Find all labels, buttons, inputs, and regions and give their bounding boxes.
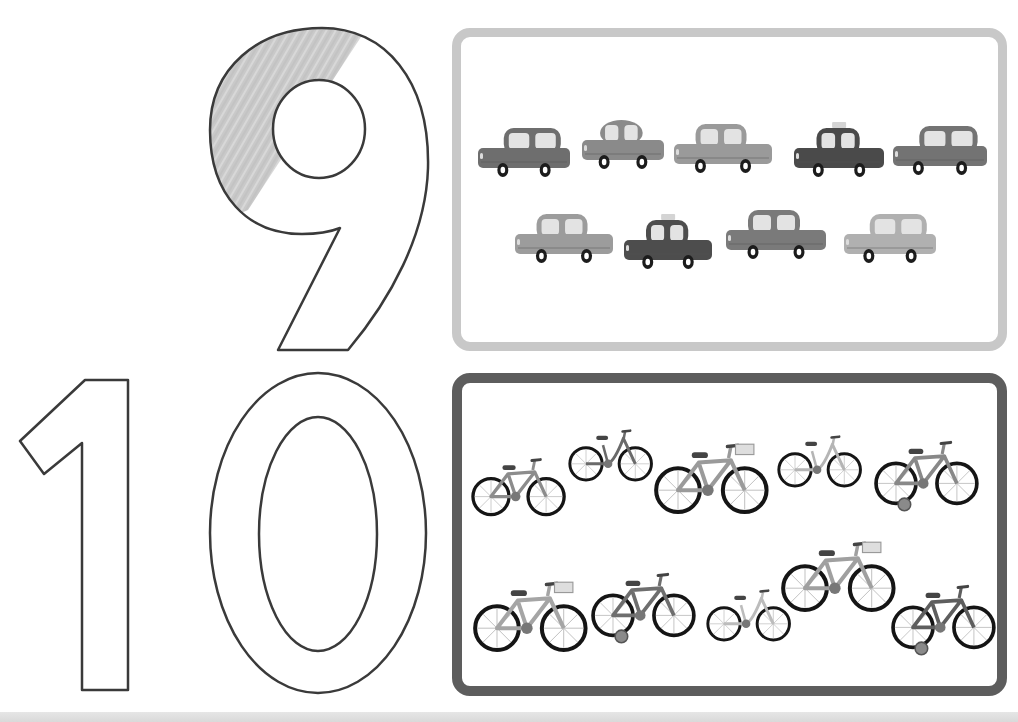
car-body — [674, 144, 772, 164]
bicycle-seat — [926, 593, 941, 598]
car-body — [893, 146, 987, 166]
car — [582, 120, 664, 169]
car-light — [480, 153, 483, 159]
bicycle — [893, 586, 994, 654]
bicycle-handlebar — [958, 586, 967, 587]
cars-panel: 9 — [452, 28, 1007, 351]
car — [624, 214, 712, 269]
car — [515, 214, 613, 263]
bicycle — [593, 574, 694, 642]
car-window — [901, 219, 922, 235]
car-body — [582, 140, 664, 160]
bicycle-training-wheel — [898, 498, 911, 511]
bicycle-chainring — [813, 466, 822, 475]
bicycle-chainring — [935, 622, 946, 633]
bicycle — [656, 444, 766, 512]
bicycle-handlebar — [623, 431, 631, 432]
car-body — [478, 148, 570, 168]
car-body — [624, 240, 712, 260]
page-bottom-edge — [0, 712, 1018, 722]
digit-one-outline — [20, 380, 128, 690]
car-light — [728, 235, 731, 241]
bicycle-basket — [555, 582, 573, 592]
car-window — [535, 133, 556, 149]
car-body — [726, 230, 826, 250]
bicycle-seat — [819, 550, 835, 556]
car-body — [515, 234, 613, 254]
car-light — [895, 151, 898, 157]
car-light — [676, 149, 679, 155]
car-light — [846, 239, 849, 245]
car-window — [724, 129, 741, 145]
bicycle-chainring — [702, 484, 714, 496]
bicycle-chainring — [511, 492, 521, 502]
car — [726, 210, 826, 259]
bicycle-seat — [734, 596, 746, 600]
car-window — [509, 133, 530, 149]
car-window — [841, 133, 855, 149]
bicycle-chainring — [918, 478, 929, 489]
digit-zero-outer — [210, 373, 426, 693]
bicycle-seat — [511, 590, 527, 596]
car — [478, 128, 570, 177]
car — [844, 214, 936, 263]
car-window — [651, 225, 664, 241]
bicycle-basket — [736, 444, 754, 454]
car — [674, 124, 772, 173]
car-window — [624, 125, 637, 141]
bicycle — [570, 431, 652, 480]
bicycle-seat — [502, 465, 515, 470]
worksheet-page: 9 10 9 10 — [0, 0, 1018, 722]
bicycle-seat — [596, 436, 608, 440]
car — [794, 122, 884, 177]
car-window — [777, 215, 795, 231]
car-window — [605, 125, 618, 141]
bicycle-handlebar — [832, 437, 840, 438]
digit-nine-counter — [273, 80, 365, 178]
car-window — [924, 131, 945, 147]
bicycle — [779, 437, 861, 486]
bicycle-chainring — [742, 620, 751, 629]
bicycle-basket — [863, 542, 881, 552]
bicycle-handlebar — [658, 574, 667, 575]
car-light — [584, 145, 587, 151]
car-window — [951, 131, 972, 147]
bicycle-training-wheel — [915, 642, 928, 655]
bicycle — [475, 582, 585, 650]
car-window — [753, 215, 771, 231]
bicycle-handlebar — [761, 591, 769, 592]
bicycle-seat — [692, 452, 708, 458]
bicycle-handlebar — [532, 460, 541, 461]
bicycle-seat — [909, 449, 924, 454]
bicycle-chainring — [829, 582, 841, 594]
bicycle-seat — [805, 442, 817, 446]
car-window — [875, 219, 896, 235]
car-window — [565, 219, 582, 235]
car-window — [670, 225, 683, 241]
bicycle — [708, 591, 790, 640]
taxi-sign — [832, 122, 846, 128]
bicycle — [783, 542, 893, 610]
car-light — [796, 153, 799, 159]
bicycle-seat — [626, 581, 641, 586]
bicycle-chainring — [521, 622, 533, 634]
bicycle-handlebar — [941, 442, 950, 443]
bicycle-chainring — [604, 460, 613, 469]
taxi-sign — [661, 214, 675, 220]
cars-illustration — [452, 28, 1007, 351]
car-window — [542, 219, 559, 235]
digit-zero-inner — [259, 417, 377, 651]
bicycle — [876, 442, 977, 510]
car-window — [701, 129, 718, 145]
car-body — [794, 148, 884, 168]
car-light — [517, 239, 520, 245]
car-light — [626, 245, 629, 251]
bicycle-training-wheel — [615, 630, 628, 643]
car-window — [822, 133, 836, 149]
bicycles-illustration — [452, 373, 1007, 696]
car-body — [844, 234, 936, 254]
bicycle-chainring — [635, 610, 646, 621]
car — [893, 126, 987, 175]
bicycle — [473, 460, 564, 515]
bicycles-panel: 10 — [452, 373, 1007, 696]
